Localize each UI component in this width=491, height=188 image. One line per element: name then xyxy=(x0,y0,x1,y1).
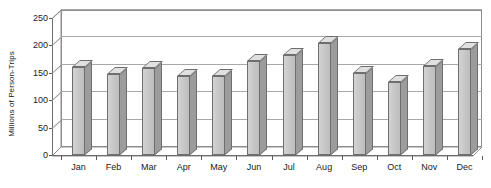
bar-apr xyxy=(177,76,190,155)
x-tick-mark xyxy=(166,156,167,160)
bar-feb xyxy=(107,74,120,155)
x-tick-mark xyxy=(377,156,378,160)
x-tick-mark xyxy=(61,156,62,160)
x-tick-mark xyxy=(447,156,448,160)
x-tick-label-mar: Mar xyxy=(141,162,157,172)
x-tick-mark xyxy=(342,156,343,160)
y-tick-label: 50 xyxy=(22,123,48,133)
bar-side-face xyxy=(401,76,408,155)
bar-dec xyxy=(458,49,471,155)
x-tick-label-feb: Feb xyxy=(106,162,122,172)
bar-side-face xyxy=(436,60,443,155)
x-axis: JanFebMarAprMayJunJulAugSepOctNovDec xyxy=(52,156,482,188)
bar-side-face xyxy=(225,69,232,155)
bar-side-face xyxy=(366,67,373,155)
x-tick-label-jun: Jun xyxy=(247,162,262,172)
bar-front-face xyxy=(142,68,155,155)
x-tick-mark xyxy=(96,156,97,160)
bar-side-face xyxy=(260,55,267,155)
bar-side-face xyxy=(155,62,162,155)
bar-side-face xyxy=(331,37,338,155)
bar-front-face xyxy=(423,66,436,155)
y-tick-label: 0 xyxy=(22,150,48,160)
bar-front-face xyxy=(353,73,366,155)
bar-chart: Millions of Person-Trips 050100150200250… xyxy=(0,0,491,188)
bar-side-face xyxy=(296,49,303,155)
bar-sep xyxy=(353,73,366,155)
y-axis-tick-labels: 050100150200250 xyxy=(22,0,48,188)
y-tick-label: 200 xyxy=(22,40,48,50)
x-tick-label-jan: Jan xyxy=(71,162,86,172)
x-tick-label-aug: Aug xyxy=(316,162,332,172)
x-tick-label-nov: Nov xyxy=(421,162,437,172)
bar-front-face xyxy=(107,74,120,155)
x-tick-label-dec: Dec xyxy=(456,162,472,172)
bar-front-face xyxy=(72,67,85,155)
bar-side-face xyxy=(120,68,127,155)
bar-jan xyxy=(72,67,85,155)
bar-jul xyxy=(283,55,296,155)
x-tick-mark xyxy=(412,156,413,160)
bar-mar xyxy=(142,68,155,155)
x-tick-mark xyxy=(272,156,273,160)
y-tick-label: 250 xyxy=(22,13,48,23)
x-tick-label-jul: Jul xyxy=(283,162,295,172)
y-tick-label: 100 xyxy=(22,95,48,105)
x-tick-label-sep: Sep xyxy=(351,162,367,172)
bar-may xyxy=(212,76,225,155)
x-tick-mark xyxy=(131,156,132,160)
bars-layer xyxy=(52,10,482,156)
bar-front-face xyxy=(247,61,260,155)
bar-side-face xyxy=(471,43,478,155)
bar-front-face xyxy=(212,76,225,155)
y-axis-title: Millions of Person-Trips xyxy=(0,0,22,188)
bar-nov xyxy=(423,66,436,155)
bar-front-face xyxy=(458,49,471,155)
x-tick-label-oct: Oct xyxy=(387,162,401,172)
bar-front-face xyxy=(318,43,331,155)
bar-side-face xyxy=(190,69,197,155)
bar-front-face xyxy=(177,76,190,155)
x-tick-mark xyxy=(236,156,237,160)
bar-front-face xyxy=(388,82,401,155)
bar-side-face xyxy=(85,61,92,155)
bar-front-face xyxy=(283,55,296,155)
x-tick-mark xyxy=(307,156,308,160)
x-tick-label-apr: Apr xyxy=(177,162,191,172)
x-tick-mark xyxy=(482,156,483,160)
x-tick-label-may: May xyxy=(210,162,227,172)
x-tick-mark xyxy=(201,156,202,160)
bar-oct xyxy=(388,82,401,155)
bar-jun xyxy=(247,61,260,155)
y-tick-label: 150 xyxy=(22,68,48,78)
bar-aug xyxy=(318,43,331,155)
